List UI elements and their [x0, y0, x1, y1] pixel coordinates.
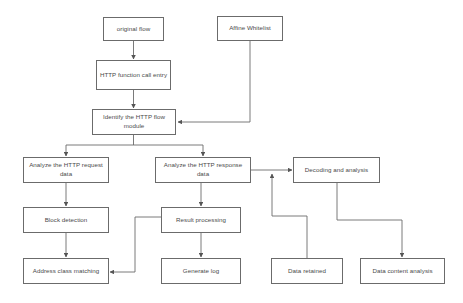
- node-analyze-http-response-data[interactable]: Analyze the HTTP response data: [155, 157, 251, 183]
- node-generate-log[interactable]: Generate log: [161, 258, 241, 284]
- node-label-identify-http-flow-module: Identify the HTTP flow module: [95, 113, 173, 131]
- node-label-address-class-matching: Address class matching: [26, 267, 106, 276]
- node-block-detection[interactable]: Block detection: [23, 207, 109, 233]
- node-http-function-call-entry[interactable]: HTTP function call entry: [96, 60, 171, 90]
- flowchart-canvas: original flow Affine Whitelist HTTP func…: [0, 0, 463, 303]
- node-data-content-analysis[interactable]: Data content analysis: [360, 258, 445, 284]
- node-affine-whitelist[interactable]: Affine Whitelist: [217, 16, 283, 41]
- connector-affine-whitelist-to-identify: [178, 41, 250, 122]
- node-label-block-detection: Block detection: [26, 216, 106, 225]
- node-label-decoding-and-analysis: Decoding and analysis: [296, 166, 377, 175]
- node-label-data-retained: Data retained: [274, 267, 340, 276]
- connector-decoding-to-data-content-analysis: [337, 183, 402, 257]
- node-original-flow[interactable]: original flow: [103, 17, 164, 41]
- node-label-original-flow: original flow: [106, 25, 161, 34]
- connector-result-to-address-match: [110, 217, 161, 272]
- node-data-retained[interactable]: Data retained: [271, 258, 343, 284]
- node-analyze-http-request-data[interactable]: Analyze the HTTP request data: [23, 157, 109, 183]
- node-label-http-function-call-entry: HTTP function call entry: [99, 71, 168, 80]
- node-identify-http-flow-module[interactable]: Identify the HTTP flow module: [92, 109, 176, 135]
- node-label-result-processing: Result processing: [164, 216, 238, 225]
- node-address-class-matching[interactable]: Address class matching: [23, 258, 109, 284]
- node-label-analyze-http-request-data: Analyze the HTTP request data: [26, 161, 106, 179]
- node-label-data-content-analysis: Data content analysis: [363, 267, 442, 276]
- node-decoding-and-analysis[interactable]: Decoding and analysis: [293, 157, 380, 183]
- node-label-affine-whitelist: Affine Whitelist: [220, 24, 280, 33]
- node-label-generate-log: Generate log: [164, 267, 238, 276]
- node-label-analyze-http-response-data: Analyze the HTTP response data: [158, 161, 248, 179]
- connector-data-retained-to-decoding-path: [272, 174, 307, 258]
- node-result-processing[interactable]: Result processing: [161, 207, 241, 233]
